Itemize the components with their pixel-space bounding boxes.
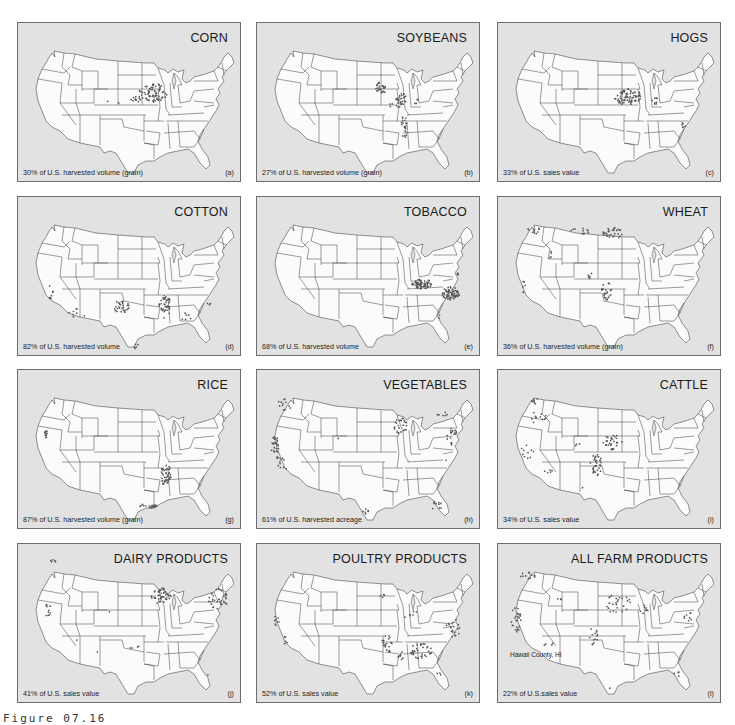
us-outline [36,225,234,347]
panel-caption: 82% of U.S. harvested volume [23,342,120,351]
panel-letter: (l) [708,689,714,698]
commodity-map-panel-poultry-products: POULTRY PRODUCTS 52% of U.S. sales value… [256,543,480,703]
us-outline [275,51,473,173]
us-outline [36,572,234,694]
panel-letter: (b) [464,168,473,177]
us-county-map [18,197,241,356]
us-county-map [498,23,721,182]
panel-letter: (f) [707,342,714,351]
panel-title: CATTLE [660,378,708,392]
panel-letter: (e) [464,342,473,351]
us-outline [275,225,473,347]
commodity-map-panel-dairy-products: DAIRY PRODUCTS 41% of U.S. sales value (… [17,543,241,703]
us-outline [36,398,234,520]
panel-caption: 52% of U.S. sales value [262,689,338,698]
commodity-map-panel-vegetables: VEGETABLES 61% of U.S. harvested acreage… [256,369,480,529]
panel-letter: (c) [706,168,714,177]
panel-title: HOGS [670,31,708,45]
panel-caption: 36% of U.S. harvested volume (grain) [503,342,623,351]
panel-title: COTTON [174,205,228,219]
commodity-map-panel-all-farm-products: ALL FARM PRODUCTS 22% of U.S.sales value… [497,543,721,703]
panel-caption: 61% of U.S. harvested acreage [262,515,362,524]
us-outline [516,572,714,694]
us-county-map [257,544,480,703]
commodity-map-panel-hogs: HOGS 33% of U.S. sales value (c) [497,22,721,182]
us-outline [516,225,714,347]
panel-caption: 30% of U.S. harvested volume (grain) [23,168,143,177]
us-county-map [257,370,480,529]
panel-title: POULTRY PRODUCTS [333,552,467,566]
panel-caption: 68% of U.S. harvested volume [262,342,359,351]
commodity-map-panel-soybeans: SOYBEANS 27% of U.S. harvested volume (g… [256,22,480,182]
panel-title: RICE [197,378,228,392]
panel-title: TOBACCO [404,205,467,219]
commodity-map-panel-wheat: WHEAT 36% of U.S. harvested volume (grai… [497,196,721,356]
us-county-map [498,544,721,703]
panel-caption: 27% of U.S. harvested volume (grain) [262,168,382,177]
us-outline [36,51,234,173]
panel-caption: 87% of U.S. harvested volume (grain) [23,515,143,524]
us-county-map [18,23,241,182]
panel-letter: (a) [225,168,234,177]
hawaii-annotation: Hawaii County, HI [510,651,562,658]
panel-letter: (k) [465,689,473,698]
panel-letter: (j) [228,689,234,698]
panel-title: DAIRY PRODUCTS [114,552,228,566]
panel-caption: 22% of U.S.sales value [503,689,577,698]
us-county-map [257,23,480,182]
panel-letter: (d) [225,342,234,351]
panel-title: ALL FARM PRODUCTS [571,552,708,566]
us-outline [516,51,714,173]
panel-title: WHEAT [663,205,708,219]
commodity-map-panel-cattle: CATTLE 34% of U.S. sales value (i) [497,369,721,529]
panel-title: VEGETABLES [383,378,467,392]
commodity-map-panel-tobacco: TOBACCO 68% of U.S. harvested volume (e) [256,196,480,356]
panel-caption: 34% of U.S. sales value [503,515,579,524]
panel-letter: (i) [708,515,714,524]
panel-caption: 33% of U.S. sales value [503,168,579,177]
commodity-map-panel-cotton: COTTON 82% of U.S. harvested volume (d) [17,196,241,356]
us-county-map [18,370,241,529]
commodity-map-panel-corn: CORN 30% of U.S. harvested volume (grain… [17,22,241,182]
panel-letter: (h) [464,515,473,524]
us-county-map [498,197,721,356]
us-county-map [257,197,480,356]
us-county-map [498,370,721,529]
panel-caption: 41% of U.S. sales value [23,689,99,698]
us-outline [275,572,473,694]
commodity-map-panel-rice: RICE 87% of U.S. harvested volume (grain… [17,369,241,529]
panel-title: SOYBEANS [397,31,467,45]
panel-title: CORN [190,31,228,45]
us-county-map [18,544,241,703]
figure-caption: Figure 07.16 [3,712,106,725]
panel-letter: (g) [225,515,234,524]
